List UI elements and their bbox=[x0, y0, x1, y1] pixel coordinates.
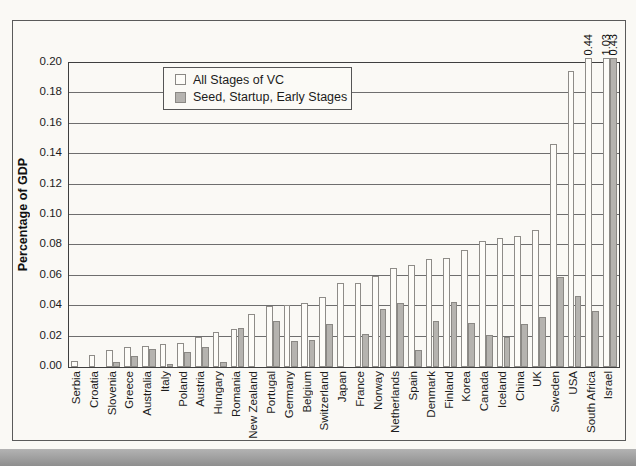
bar-germany-all-stages bbox=[284, 305, 291, 367]
x-axis-label: Canada bbox=[477, 371, 492, 411]
gridline bbox=[69, 123, 619, 124]
bar-netherlands-seed-early bbox=[397, 303, 404, 367]
bar-poland-all-stages bbox=[177, 343, 184, 367]
bar-japan-all-stages bbox=[337, 283, 344, 367]
bar-netherlands-all-stages bbox=[390, 268, 397, 367]
bar-australia-all-stages bbox=[142, 346, 149, 367]
x-axis-label: Norway bbox=[371, 371, 386, 410]
y-tick-label: 0.10 bbox=[18, 207, 62, 219]
x-axis-label: Switzerland bbox=[317, 371, 332, 430]
bar-denmark-seed-early bbox=[433, 321, 440, 367]
bar-south-africa-all-stages bbox=[585, 58, 592, 367]
x-axis-label: Japan bbox=[335, 371, 350, 402]
x-axis-label: Sweden bbox=[548, 371, 563, 413]
x-axis-label: Croatia bbox=[87, 371, 102, 408]
x-axis-label: New Zealand bbox=[246, 371, 261, 439]
bar-sweden-seed-early bbox=[557, 277, 564, 367]
bar-norway-seed-early bbox=[380, 309, 387, 367]
bar-serbia-all-stages bbox=[71, 361, 78, 367]
gridline bbox=[69, 214, 619, 215]
bar-italy-all-stages bbox=[160, 344, 167, 367]
x-axis-label: Italy bbox=[158, 371, 173, 392]
bar-france-seed-early bbox=[362, 334, 369, 367]
x-axis-label: Netherlands bbox=[388, 371, 403, 433]
bar-south-africa-seed-early bbox=[592, 311, 599, 367]
x-axis-label: Poland bbox=[176, 371, 191, 407]
bar-switzerland-seed-early bbox=[326, 324, 333, 367]
bar-value-annotation: 0.44 bbox=[582, 34, 595, 55]
y-tick-label: 0.02 bbox=[18, 329, 62, 341]
bar-finland-all-stages bbox=[443, 258, 450, 367]
bar-korea-all-stages bbox=[461, 250, 468, 367]
x-axis-label: USA bbox=[566, 371, 581, 395]
chart-stage: Percentage of GDP All Stages of VC Seed,… bbox=[0, 0, 636, 466]
bar-denmark-all-stages bbox=[426, 259, 433, 367]
x-axis-label: Belgium bbox=[300, 371, 315, 413]
x-axis-label: Hungary bbox=[211, 371, 226, 414]
bar-italy-seed-early bbox=[167, 364, 174, 367]
bar-austria-seed-early bbox=[202, 347, 209, 367]
legend-swatch-all-stages-icon bbox=[175, 74, 186, 85]
y-tick-label: 0.18 bbox=[18, 85, 62, 97]
x-axis-label: South Africa bbox=[584, 371, 599, 433]
x-axis-label: Finland bbox=[442, 371, 457, 409]
y-tick-label: 0.14 bbox=[18, 146, 62, 158]
x-axis-label: Greece bbox=[122, 371, 137, 409]
bar-israel-all-stages bbox=[603, 58, 610, 367]
legend: All Stages of VC Seed, Startup, Early St… bbox=[163, 67, 352, 110]
legend-item-seed-stages: Seed, Startup, Early Stages bbox=[175, 90, 351, 104]
y-tick-label: 0.20 bbox=[18, 55, 62, 67]
bar-belgium-seed-early bbox=[309, 340, 316, 367]
bar-croatia-all-stages bbox=[89, 355, 96, 367]
gridline bbox=[69, 153, 619, 154]
bar-france-all-stages bbox=[355, 283, 362, 367]
bar-hungary-all-stages bbox=[213, 332, 220, 367]
legend-swatch-seed-stages-icon bbox=[175, 92, 186, 103]
x-axis-label: France bbox=[353, 371, 368, 407]
bar-romania-seed-early bbox=[238, 328, 245, 368]
bar-greece-seed-early bbox=[131, 356, 138, 367]
bar-spain-all-stages bbox=[408, 265, 415, 367]
bar-germany-seed-early bbox=[291, 341, 298, 367]
x-axis-label: Israel bbox=[601, 371, 616, 399]
bar-canada-all-stages bbox=[479, 241, 486, 367]
legend-label-all-stages: All Stages of VC bbox=[193, 73, 284, 87]
y-tick-label: 0.04 bbox=[18, 298, 62, 310]
x-axis-label: Denmark bbox=[424, 371, 439, 418]
y-tick-label: 0.12 bbox=[18, 177, 62, 189]
x-axis-label: Austria bbox=[193, 371, 208, 407]
gridline bbox=[69, 184, 619, 185]
y-tick-label: 0.08 bbox=[18, 237, 62, 249]
bar-sweden-all-stages bbox=[550, 144, 557, 367]
bar-portugal-all-stages bbox=[266, 306, 273, 367]
x-axis-label: Germany bbox=[282, 371, 297, 418]
bar-iceland-seed-early bbox=[504, 337, 511, 367]
bar-poland-seed-early bbox=[184, 352, 191, 367]
bar-hungary-seed-early bbox=[220, 362, 227, 367]
bar-belgium-all-stages bbox=[301, 303, 308, 367]
bar-norway-all-stages bbox=[372, 276, 379, 367]
x-axis-label: Serbia bbox=[69, 371, 84, 404]
legend-item-all-stages: All Stages of VC bbox=[175, 73, 351, 87]
x-axis-label: UK bbox=[530, 371, 545, 387]
bar-usa-seed-early bbox=[575, 296, 582, 367]
x-axis-label: Iceland bbox=[495, 371, 510, 408]
x-axis-label: Korea bbox=[459, 371, 474, 402]
bar-israel-seed-early bbox=[610, 58, 617, 367]
bar-switzerland-all-stages bbox=[319, 297, 326, 367]
bar-usa-all-stages bbox=[568, 71, 575, 367]
page-bottom-edge-strip bbox=[0, 449, 636, 466]
x-axis-label: Romania bbox=[229, 371, 244, 417]
bar-slovenia-seed-early bbox=[113, 362, 120, 367]
x-axis-label: Portugal bbox=[264, 371, 279, 414]
legend-label-seed-stages: Seed, Startup, Early Stages bbox=[193, 90, 347, 104]
bar-spain-seed-early bbox=[415, 350, 422, 367]
y-tick-label: 0.00 bbox=[18, 359, 62, 371]
bar-portugal-seed-early bbox=[273, 321, 280, 367]
bar-australia-seed-early bbox=[149, 349, 156, 367]
x-axis-label: China bbox=[513, 371, 528, 401]
bar-new-zealand-all-stages bbox=[248, 314, 255, 367]
bar-china-seed-early bbox=[521, 324, 528, 367]
x-axis-label: Spain bbox=[406, 371, 421, 400]
x-axis-label: Australia bbox=[140, 371, 155, 416]
